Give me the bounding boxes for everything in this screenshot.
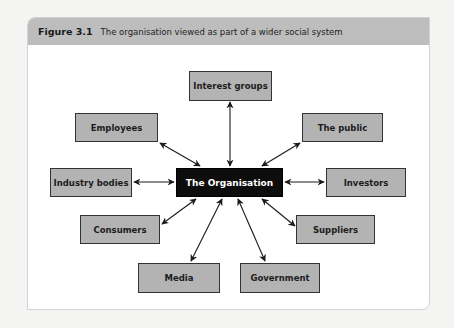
node-label: Industry bodies [54,178,129,188]
node-the-public: The public [302,113,383,142]
arrow-org-public [262,143,300,166]
node-employees: Employees [75,113,158,142]
arrow-org-media [191,199,222,261]
node-label: Interest groups [193,81,267,91]
node-label: Consumers [93,225,146,235]
arrow-org-consumers [162,199,196,224]
node-label: Media [165,273,194,283]
node-investors: Investors [326,168,406,197]
node-suppliers: Suppliers [296,215,375,244]
node-interest-groups: Interest groups [189,71,272,101]
node-the-organisation: The Organisation [176,168,283,197]
node-label: Government [250,273,309,283]
arrow-org-government [238,199,265,261]
node-consumers: Consumers [80,215,160,244]
node-label: Suppliers [313,225,358,235]
arrows-layer [0,0,454,328]
node-label: The Organisation [186,178,273,188]
node-label: Employees [91,123,143,133]
arrow-org-employees [160,143,200,166]
node-label: The public [318,123,368,133]
node-industry-bodies: Industry bodies [50,168,132,197]
node-government: Government [240,263,320,293]
node-label: Investors [344,178,389,188]
node-media: Media [138,263,220,293]
arrow-org-suppliers [262,199,295,226]
